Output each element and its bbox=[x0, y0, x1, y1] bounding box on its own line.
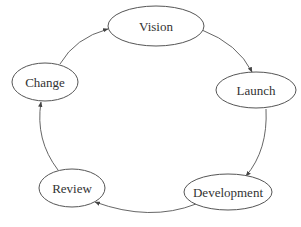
node-label: Review bbox=[52, 181, 92, 196]
node-launch: Launch bbox=[216, 72, 296, 108]
cycle-diagram: Vision Launch Development Review Change bbox=[0, 0, 301, 227]
node-label: Vision bbox=[139, 19, 173, 34]
node-label: Launch bbox=[237, 83, 276, 98]
node-development: Development bbox=[184, 174, 272, 210]
node-review: Review bbox=[39, 169, 105, 207]
node-label: Change bbox=[25, 75, 65, 90]
edge-vision-to-launch bbox=[202, 30, 252, 72]
node-vision: Vision bbox=[108, 6, 204, 46]
edge-review-to-change bbox=[40, 102, 58, 170]
edge-development-to-review bbox=[95, 202, 196, 213]
node-change: Change bbox=[12, 63, 78, 101]
edge-launch-to-development bbox=[246, 109, 266, 176]
edge-change-to-vision bbox=[60, 29, 108, 64]
node-label: Development bbox=[193, 185, 263, 200]
